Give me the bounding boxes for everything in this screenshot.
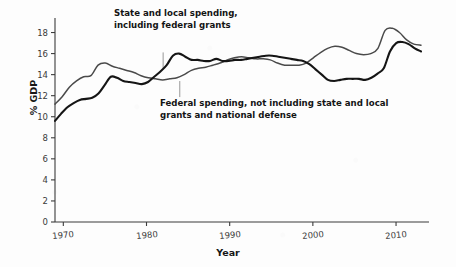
annotation-state-local: State and local spending, including fede… — [114, 8, 238, 32]
chart-plot-area — [0, 0, 456, 267]
y-axis-tick-label: 16 — [20, 49, 48, 59]
y-axis-tick-label: 2 — [20, 196, 48, 206]
y-axis-tick-label: 4 — [20, 175, 48, 185]
annotation-federal-line2: grants and national defense — [160, 110, 389, 122]
annotation-federal-line1: Federal spending, not including state an… — [160, 98, 389, 110]
annotation-federal: Federal spending, not including state an… — [160, 98, 389, 122]
y-axis-tick-label: 18 — [20, 28, 48, 38]
y-axis-tick-label: 0 — [20, 217, 48, 227]
x-axis-title: Year — [0, 247, 456, 258]
y-axis-title: % GDP — [28, 63, 39, 133]
chart-figure: 024681012141618 19701980199020002010 % G… — [0, 0, 456, 267]
y-axis-tick-label: 8 — [20, 133, 48, 143]
annotation-state-local-line1: State and local spending, — [114, 8, 238, 20]
annotation-state-local-line2: including federal grants — [114, 20, 238, 32]
y-axis-tick-label: 6 — [20, 154, 48, 164]
series-line-state-local — [55, 28, 421, 104]
